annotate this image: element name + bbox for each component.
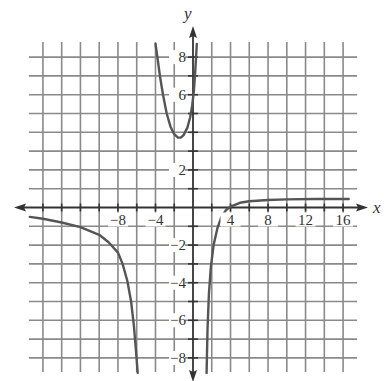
y-axis-label: y bbox=[182, 4, 192, 23]
x-tick-label: 16 bbox=[336, 212, 352, 228]
curve-left-branch bbox=[30, 217, 138, 373]
y-tick-label: 8 bbox=[179, 49, 187, 65]
x-tick-label: 12 bbox=[298, 212, 313, 228]
y-tick-label: −6 bbox=[170, 312, 186, 328]
y-tick-label: 6 bbox=[179, 87, 187, 103]
x-tick-label: 4 bbox=[227, 212, 235, 228]
y-tick-label: −2 bbox=[170, 237, 186, 253]
x-tick-label: −4 bbox=[147, 212, 163, 228]
y-tick-label: 2 bbox=[179, 162, 187, 178]
function-graph: −8−4481216−8−6−4−2268 x y bbox=[0, 0, 386, 381]
y-tick-label: −4 bbox=[170, 275, 186, 291]
y-tick-label: −8 bbox=[170, 350, 186, 366]
x-axis-label: x bbox=[372, 198, 381, 217]
x-tick-label: −8 bbox=[110, 212, 126, 228]
x-tick-label: 8 bbox=[264, 212, 272, 228]
axes bbox=[14, 26, 368, 381]
